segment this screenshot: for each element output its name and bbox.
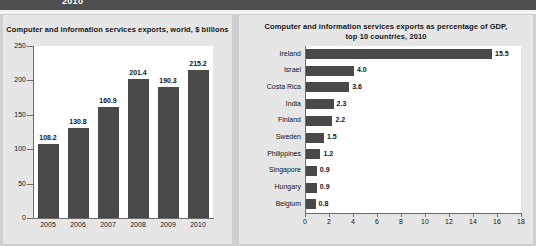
right-bar	[306, 149, 320, 159]
left-y-axis	[33, 46, 34, 219]
right-x-tick-label: 16	[487, 218, 507, 225]
right-bar	[306, 49, 492, 59]
left-y-tick	[27, 46, 33, 47]
right-category-label: Belgium	[239, 200, 301, 207]
left-bar	[158, 87, 179, 218]
right-bar-value-label: 2.2	[335, 116, 345, 123]
left-bar	[188, 70, 209, 218]
left-y-tick-label: 250	[3, 42, 26, 49]
right-x-tick	[401, 213, 402, 217]
right-bar-row: Costa Rica3.6	[239, 79, 533, 96]
right-bar	[306, 99, 334, 109]
left-chart-panel: Computer and information services export…	[3, 15, 232, 244]
right-bar	[306, 82, 349, 92]
right-bar-value-label: 0.9	[320, 166, 330, 173]
left-y-tick	[27, 218, 33, 219]
right-bar-value-label: 0.9	[320, 183, 330, 190]
right-chart-title-line2: top 10 countries, 2010	[239, 32, 533, 42]
left-y-tick-label: 150	[3, 111, 26, 118]
right-x-tick	[425, 213, 426, 217]
right-bar-row: Ireland15.5	[239, 46, 533, 63]
right-bar-value-label: 4.0	[357, 66, 367, 73]
right-bar	[306, 116, 332, 126]
right-bar-row: Hungary0.9	[239, 180, 533, 197]
left-bar-value-label: 130.8	[58, 118, 98, 125]
right-bar-value-label: 1.5	[327, 133, 337, 140]
right-bar-value-label: 15.5	[495, 50, 509, 57]
right-category-label: India	[239, 100, 301, 107]
right-chart-title-line1: Computer and information services export…	[239, 22, 533, 32]
left-y-tick	[27, 149, 33, 150]
right-category-label: Costa Rica	[239, 83, 301, 90]
right-x-tick	[305, 213, 306, 217]
right-bar-value-label: 3.6	[352, 83, 362, 90]
right-category-label: Finland	[239, 116, 301, 123]
right-bar-row: Israel4.0	[239, 63, 533, 80]
right-x-tick-label: 18	[511, 218, 531, 225]
banner-divider	[0, 10, 536, 14]
banner-year-label: 2010	[62, 0, 83, 6]
right-x-tick-label: 12	[439, 218, 459, 225]
right-bar-row: Finland2.2	[239, 113, 533, 130]
right-chart-panel: Computer and information services export…	[239, 15, 533, 244]
right-category-label: Sweden	[239, 133, 301, 140]
right-bar-row: Singapore0.9	[239, 163, 533, 180]
right-bar-row: India2.3	[239, 96, 533, 113]
left-chart-title: Computer and information services export…	[3, 25, 232, 35]
left-bar-value-label: 160.9	[88, 97, 128, 104]
left-bar-value-label: 215.2	[178, 60, 218, 67]
right-bar	[306, 133, 324, 143]
right-x-tick-label: 4	[343, 218, 363, 225]
left-y-tick	[27, 80, 33, 81]
left-bar-value-label: 108.2	[28, 134, 68, 141]
right-x-tick-label: 6	[367, 218, 387, 225]
right-x-tick	[377, 213, 378, 217]
figure-root: 2010 Computer and information services e…	[0, 0, 536, 246]
right-bar-row: Sweden1.5	[239, 130, 533, 147]
right-category-label: Singapore	[239, 166, 301, 173]
left-y-tick-label: 200	[3, 76, 26, 83]
left-y-tick-label: 100	[3, 145, 26, 152]
right-bar	[306, 166, 317, 176]
right-x-tick	[449, 213, 450, 217]
right-x-tick	[521, 213, 522, 217]
right-x-axis	[305, 213, 522, 214]
right-bar	[306, 199, 316, 209]
right-category-label: Hungary	[239, 183, 301, 190]
page-banner: 2010	[0, 0, 536, 10]
right-x-tick	[497, 213, 498, 217]
right-x-tick	[353, 213, 354, 217]
right-chart-title: Computer and information services export…	[239, 22, 533, 41]
left-bar	[98, 107, 119, 218]
right-bar-value-label: 2.3	[337, 100, 347, 107]
right-category-label: Israel	[239, 66, 301, 73]
right-x-tick	[329, 213, 330, 217]
left-x-category-label: 2010	[178, 221, 218, 228]
left-y-tick	[27, 184, 33, 185]
left-bar	[128, 79, 149, 218]
right-x-tick	[473, 213, 474, 217]
right-category-label: Philippines	[239, 150, 301, 157]
left-y-tick-label: 50	[3, 180, 26, 187]
right-bar	[306, 66, 354, 76]
right-x-tick-label: 2	[319, 218, 339, 225]
left-bar	[38, 144, 59, 218]
right-bar-value-label: 0.8	[319, 200, 329, 207]
right-x-tick-label: 8	[391, 218, 411, 225]
left-x-axis	[33, 218, 214, 219]
right-x-tick-label: 10	[415, 218, 435, 225]
left-bar-value-label: 190.3	[148, 77, 188, 84]
right-x-tick-label: 0	[295, 218, 315, 225]
right-category-label: Ireland	[239, 50, 301, 57]
left-bar	[68, 128, 89, 218]
right-bar-row: Belgium0.8	[239, 196, 533, 213]
right-bar	[306, 183, 317, 193]
right-bar-row: Philippines1.2	[239, 146, 533, 163]
left-bar-value-label: 201.4	[118, 69, 158, 76]
left-y-tick-label: 0	[3, 214, 26, 221]
right-bar-value-label: 1.2	[323, 150, 333, 157]
right-x-tick-label: 14	[463, 218, 483, 225]
left-y-tick	[27, 115, 33, 116]
